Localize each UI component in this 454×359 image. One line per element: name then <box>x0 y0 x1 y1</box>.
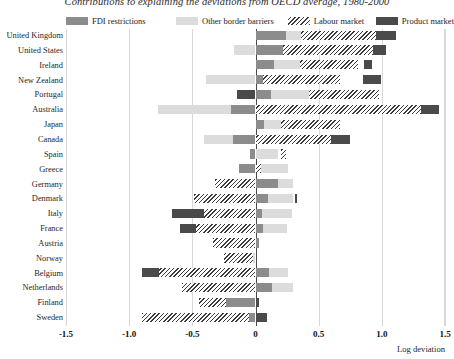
bar-segment-other-border-barriers <box>269 268 288 277</box>
bar-row[interactable] <box>66 267 445 282</box>
bar-segment-labour-market <box>199 298 227 307</box>
y-axis-label: Ireland <box>0 59 63 74</box>
bar-segment-fdi-restrictions <box>256 60 275 69</box>
bar-row[interactable] <box>66 178 445 193</box>
bar-segment-fdi-restrictions <box>256 45 284 54</box>
y-axis-label: Belgium <box>0 267 63 282</box>
legend-item-other-border-barriers: Other border barriers <box>176 14 288 27</box>
legend-swatch-labour-market-icon <box>288 17 310 25</box>
bar-row[interactable] <box>66 296 445 311</box>
bar-row[interactable] <box>66 252 445 267</box>
bar-row[interactable] <box>66 74 445 89</box>
y-axis-label: Germany <box>0 178 63 193</box>
legend-item-labour-market: Labour market <box>288 14 376 27</box>
bar-segment-labour-market <box>182 283 255 292</box>
legend-label-labour-market: Labour market <box>314 16 364 26</box>
bar-segment-labour-market <box>194 194 256 203</box>
x-axis-tick-label: 0.5 <box>313 329 324 339</box>
bar-segment-labour-market <box>283 45 373 54</box>
bar-segment-fdi-restrictions <box>256 283 272 292</box>
bar-row[interactable] <box>66 237 445 252</box>
plot-area <box>66 29 445 326</box>
legend-item-product-market: Product market <box>376 14 454 27</box>
bar-row[interactable] <box>66 59 445 74</box>
y-axis-label: Canada <box>0 133 63 148</box>
legend-swatch-other-border-barriers-icon <box>176 17 198 25</box>
bar-segment-product-market <box>257 298 260 307</box>
bar-segment-labour-market <box>196 224 255 233</box>
bar-row[interactable] <box>66 281 445 296</box>
bar-segment-product-market <box>421 105 439 114</box>
y-axis-label: Norway <box>0 252 63 267</box>
bar-segment-other-border-barriers <box>274 60 299 69</box>
bar-row[interactable] <box>66 44 445 59</box>
legend-swatch-fdi-icon <box>66 17 88 25</box>
bar-row[interactable] <box>66 311 445 326</box>
bar-segment-product-market <box>237 90 256 99</box>
bar-segment-other-border-barriers <box>204 135 233 144</box>
bar-segment-product-market <box>180 224 196 233</box>
bar-row[interactable] <box>66 133 445 148</box>
bar-segment-fdi-restrictions <box>256 90 271 99</box>
bar-segment-fdi-restrictions <box>231 105 255 114</box>
bar-segment-labour-market <box>281 149 286 158</box>
bar-segment-fdi-restrictions <box>256 31 286 40</box>
bar-segment-product-market <box>373 45 386 54</box>
bar-segment-other-border-barriers <box>278 179 293 188</box>
y-axis-label: Netherlands <box>0 281 63 296</box>
bar-segment-fdi-restrictions <box>226 298 255 307</box>
y-axis-label: Sweden <box>0 311 63 326</box>
y-axis-label: Austria <box>0 237 63 252</box>
bar-segment-labour-market <box>281 120 340 129</box>
x-axis-tick-label: 1.5 <box>439 329 450 339</box>
bar-segment-fdi-restrictions <box>256 238 260 247</box>
x-axis-tick-label: -1.0 <box>122 329 136 339</box>
bar-row[interactable] <box>66 118 445 133</box>
bar-row[interactable] <box>66 103 445 118</box>
bar-segment-labour-market <box>159 268 255 277</box>
bar-segment-other-border-barriers <box>253 253 256 262</box>
bar-segment-product-market <box>363 75 381 84</box>
bar-row[interactable] <box>66 192 445 207</box>
y-axis-label: Spain <box>0 148 63 163</box>
bar-segment-labour-market <box>256 135 332 144</box>
bar-row[interactable] <box>66 163 445 178</box>
bar-segment-other-border-barriers <box>263 224 287 233</box>
bar-segment-other-border-barriers <box>256 149 279 158</box>
bar-segment-labour-market <box>263 75 340 84</box>
bar-segment-labour-market <box>256 105 421 114</box>
legend-item-fdi-restrictions: FDI restrictions <box>66 14 176 27</box>
bar-row[interactable] <box>66 222 445 237</box>
legend-label-fdi-restrictions: FDI restrictions <box>92 16 146 26</box>
bar-row[interactable] <box>66 29 445 44</box>
y-axis-label: Finland <box>0 296 63 311</box>
y-axis-category-labels: United KingdomUnited StatesIrelandNew Ze… <box>0 29 63 326</box>
y-axis-label: France <box>0 222 63 237</box>
y-axis-label: Italy <box>0 207 63 222</box>
bar-segment-fdi-restrictions <box>256 179 279 188</box>
bar-row[interactable] <box>66 88 445 103</box>
bar-segment-product-market <box>172 209 204 218</box>
bar-segment-labour-market <box>215 179 255 188</box>
bar-row[interactable] <box>66 207 445 222</box>
chart-container: Contributions to explaining the deviatio… <box>0 0 454 359</box>
bar-segment-other-border-barriers <box>262 209 292 218</box>
chart-legend: FDI restrictions Other border barriers L… <box>66 14 454 27</box>
bar-segment-product-market <box>364 60 372 69</box>
y-axis-label: Portugal <box>0 88 63 103</box>
x-axis-tick-labels: -1.5-1.0-0.500.51.01.5 <box>0 329 454 343</box>
bar-segment-product-market <box>142 268 160 277</box>
bar-segment-labour-market <box>213 238 256 247</box>
bar-segment-labour-market <box>204 209 256 218</box>
bar-segment-labour-market <box>300 60 358 69</box>
bar-row[interactable] <box>66 148 445 163</box>
y-axis-label: Greece <box>0 163 63 178</box>
x-axis-tick-label: 0 <box>253 329 258 339</box>
bar-segment-other-border-barriers <box>271 90 309 99</box>
x-axis-tick-label: -0.5 <box>185 329 199 339</box>
bar-segment-other-border-barriers <box>286 31 301 40</box>
bar-segment-other-border-barriers <box>261 164 289 173</box>
bar-segment-other-border-barriers <box>158 105 231 114</box>
chart-title: Contributions to explaining the deviatio… <box>0 0 454 7</box>
bar-segment-other-border-barriers <box>234 45 255 54</box>
